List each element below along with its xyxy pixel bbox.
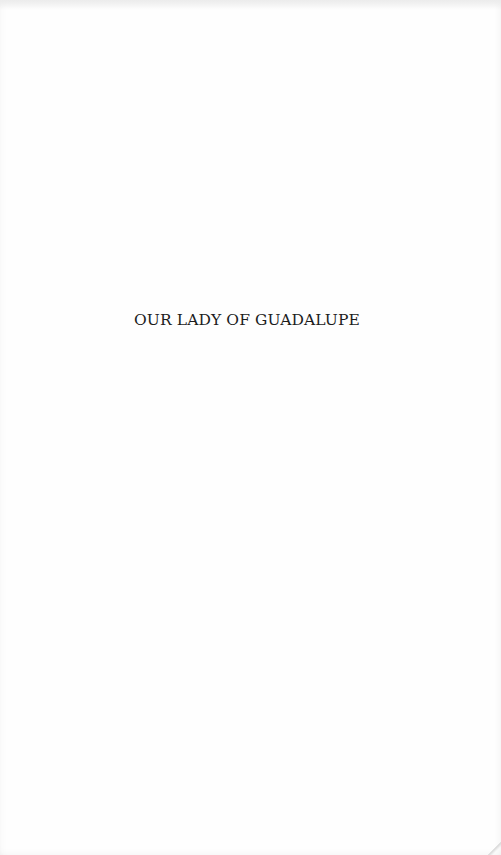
half-title: OUR LADY OF GUADALUPE	[134, 310, 360, 330]
book-page: OUR LADY OF GUADALUPE	[0, 0, 501, 855]
scan-corner-mark	[487, 841, 501, 855]
scan-top-edge-shadow	[0, 0, 501, 10]
